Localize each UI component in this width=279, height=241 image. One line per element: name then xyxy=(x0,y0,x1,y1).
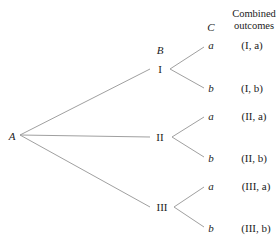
edge-III-a xyxy=(174,187,204,207)
outcome-i-a: (I, a) xyxy=(241,39,262,51)
root-node-a: A xyxy=(9,130,16,142)
edge-A-III xyxy=(20,135,150,207)
header-line-1: Combined xyxy=(232,8,276,20)
level-label-c: C xyxy=(207,21,214,33)
outcome-iii-b: (III, b) xyxy=(241,222,270,234)
edge-II-a xyxy=(172,117,204,137)
branch-node-iii: III xyxy=(157,201,168,213)
edge-I-a xyxy=(170,47,204,69)
level-label-b: B xyxy=(157,44,164,56)
branch-node-ii: II xyxy=(156,131,163,143)
edge-II-b xyxy=(172,137,204,157)
header-line-2: outcomes xyxy=(232,20,276,32)
edge-I-b xyxy=(170,69,204,88)
outcome-iii-a: (III, a) xyxy=(242,180,271,192)
leaf-node-i-a: a xyxy=(208,39,214,51)
outcome-ii-a: (II, a) xyxy=(241,110,266,122)
outcome-i-b: (I, b) xyxy=(241,82,263,94)
edge-III-b xyxy=(174,207,204,227)
leaf-node-i-b: b xyxy=(208,82,214,94)
branch-node-i: I xyxy=(158,63,162,75)
edge-A-II xyxy=(20,135,150,137)
outcome-ii-b: (II, b) xyxy=(241,152,267,164)
edge-A-I xyxy=(20,69,150,135)
tree-edges xyxy=(0,0,279,241)
leaf-node-ii-b: b xyxy=(208,152,214,164)
combined-outcomes-header: Combined outcomes xyxy=(232,8,276,32)
leaf-node-ii-a: a xyxy=(208,110,214,122)
leaf-node-iii-a: a xyxy=(208,180,214,192)
leaf-node-iii-b: b xyxy=(208,222,214,234)
